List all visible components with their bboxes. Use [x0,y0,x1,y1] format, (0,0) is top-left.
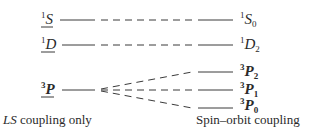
term-1S: 1S [41,10,95,27]
level-1S0-subscript: 0 [252,19,257,29]
term-3P-letter: P [46,81,56,97]
caption-spin-orbit: Spin–orbit coupling [196,112,300,127]
svg-text:1S: 1S [41,10,54,27]
level-1D2-subscript: 2 [255,44,260,54]
term-1D: 1D [41,35,95,52]
caption-ls-italic: LS [2,112,17,127]
svg-text:1D: 1D [41,35,57,52]
svg-text:1S0: 1S0 [240,10,257,29]
connector-3P-3P2 [101,72,192,89]
level-3P2-subscript: 2 [254,71,259,81]
level-3P2: 3P2 [198,62,259,81]
term-1D-letter: D [45,36,57,52]
caption-ls-coupling: LS coupling only [2,112,92,127]
svg-text:1D2: 1D2 [240,35,260,54]
energy-level-diagram: 1S 1S0 1D 1D2 3P [0,0,313,129]
level-1S0: 1S0 [198,10,257,29]
connector-3P-3P0 [101,91,192,108]
svg-text:3P2: 3P2 [240,62,259,81]
level-1D2: 1D2 [198,35,260,54]
svg-text:3P: 3P [41,80,56,97]
term-1S-letter: S [46,11,54,27]
level-1D2-letter: D [244,36,256,52]
term-3P: 3P [41,80,95,97]
caption-ls-rest: coupling only [17,112,93,127]
level-3P1-subscript: 1 [254,89,259,99]
